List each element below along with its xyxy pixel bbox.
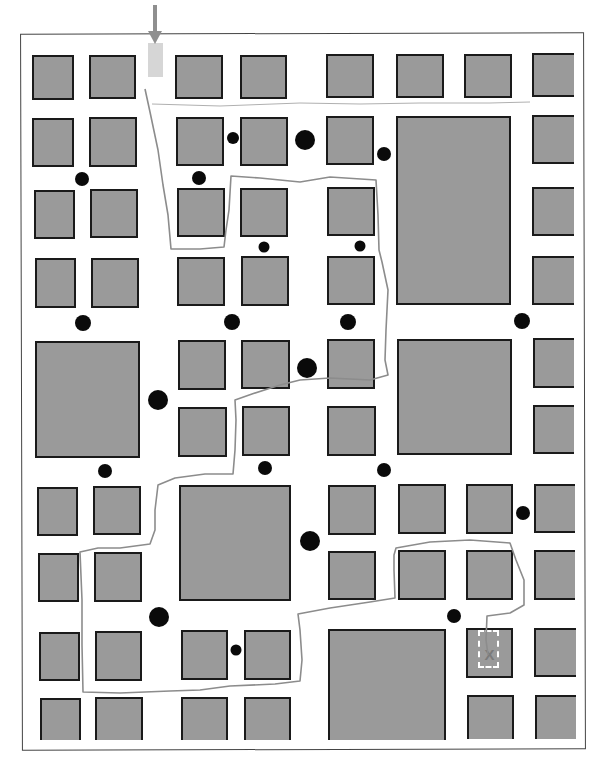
obstacle-dot — [75, 172, 89, 186]
city-block — [32, 118, 74, 167]
city-block — [466, 484, 513, 534]
city-block — [241, 256, 289, 306]
obstacle-dot — [355, 241, 366, 252]
obstacle-dot — [149, 607, 169, 627]
city-block — [35, 341, 140, 458]
obstacle-dot — [377, 147, 391, 161]
obstacle-dot — [98, 464, 112, 478]
city-block — [244, 630, 291, 680]
city-block — [398, 550, 446, 600]
city-block — [534, 628, 576, 677]
city-block — [396, 116, 511, 305]
city-block — [40, 698, 81, 740]
city-block — [327, 187, 375, 236]
city-block — [326, 54, 374, 98]
city-block — [34, 190, 75, 239]
city-block — [327, 339, 375, 389]
city-block — [181, 630, 228, 680]
obstacle-dot — [300, 531, 320, 551]
city-block — [534, 484, 575, 533]
obstacle-dot — [227, 132, 239, 144]
city-block — [38, 553, 79, 602]
obstacle-dot — [75, 315, 91, 331]
city-block — [178, 407, 227, 457]
city-block — [240, 55, 287, 99]
city-block — [535, 695, 576, 739]
city-block — [181, 697, 228, 740]
city-block — [396, 54, 444, 98]
city-block — [90, 189, 138, 238]
obstacle-dot — [297, 358, 317, 378]
city-block — [32, 55, 74, 100]
city-block — [242, 406, 290, 456]
city-block — [532, 187, 574, 236]
obstacle-dot — [514, 313, 530, 329]
city-block — [398, 484, 446, 534]
x-mark-icon: X — [485, 647, 495, 662]
city-block — [328, 551, 376, 600]
city-block — [35, 258, 76, 308]
obstacle-dot — [192, 171, 206, 185]
city-block — [240, 117, 288, 166]
city-block — [532, 53, 574, 97]
city-block — [91, 258, 139, 308]
city-block — [177, 188, 225, 237]
city-maze-map: X — [0, 0, 605, 762]
city-block — [95, 697, 143, 740]
city-block — [467, 695, 514, 739]
city-block — [464, 54, 512, 98]
goal-box: X — [478, 630, 499, 668]
city-block — [327, 406, 376, 456]
obstacle-dot — [447, 609, 461, 623]
city-block — [244, 697, 291, 740]
city-block — [240, 188, 288, 237]
city-block — [176, 117, 224, 166]
obstacle-dot — [231, 645, 242, 656]
city-block — [533, 405, 574, 454]
city-block — [327, 256, 375, 305]
city-block — [241, 340, 290, 389]
obstacle-dot — [377, 463, 391, 477]
city-block — [89, 117, 137, 167]
obstacle-dot — [340, 314, 356, 330]
city-block — [534, 550, 575, 600]
city-block — [177, 257, 225, 306]
city-block — [39, 632, 80, 681]
city-block — [328, 485, 376, 535]
city-block — [37, 487, 78, 536]
city-block — [93, 486, 141, 535]
start-marker — [148, 43, 163, 77]
obstacle-dot — [295, 130, 315, 150]
obstacle-dot — [148, 390, 168, 410]
city-block — [532, 256, 574, 305]
city-block — [328, 629, 446, 740]
city-block — [178, 340, 226, 390]
city-block — [89, 55, 136, 99]
city-block — [466, 550, 513, 600]
city-block — [397, 339, 512, 455]
city-block — [175, 55, 223, 99]
city-block — [532, 115, 574, 164]
obstacle-dot — [259, 242, 270, 253]
obstacle-dot — [258, 461, 272, 475]
obstacle-dot — [516, 506, 530, 520]
city-block — [95, 631, 142, 681]
city-block — [179, 485, 291, 601]
city-block — [94, 552, 142, 602]
obstacle-dot — [224, 314, 240, 330]
city-block — [533, 338, 574, 388]
city-block — [326, 116, 374, 165]
